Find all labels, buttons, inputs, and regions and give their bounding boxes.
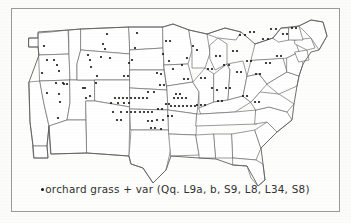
state-louisiana [169, 134, 199, 156]
state-california-south [33, 146, 48, 158]
distribution-dot [154, 127, 156, 129]
distribution-dot [259, 73, 261, 75]
distribution-dot [89, 59, 91, 61]
distribution-dot [53, 59, 55, 61]
distribution-dot [146, 97, 148, 99]
us-dot-distribution-map [11, 8, 340, 212]
state-michigan-upper [207, 28, 241, 40]
distribution-dot [130, 111, 132, 113]
distribution-dot [225, 87, 227, 89]
distribution-dot [173, 97, 175, 99]
distribution-dot [136, 32, 138, 34]
distribution-dot [157, 108, 159, 110]
distribution-dot [174, 105, 176, 107]
state-north-dakota [129, 27, 163, 50]
distribution-dot [160, 128, 162, 130]
distribution-dot [276, 55, 278, 57]
distribution-dot [118, 97, 120, 99]
distribution-dot [130, 97, 132, 99]
figure-caption: orchard grass + var (Qq. L9a, b, S9, L8,… [0, 183, 351, 195]
distribution-dot [123, 102, 125, 104]
distribution-dot [177, 97, 179, 99]
distribution-dot [211, 87, 213, 89]
distribution-dot [126, 111, 128, 113]
distribution-dot [267, 38, 269, 40]
distribution-dot [100, 56, 102, 58]
distribution-dot [163, 84, 165, 86]
distribution-dot [120, 111, 122, 113]
distribution-dot [190, 105, 192, 107]
distribution-dot [170, 105, 172, 107]
distribution-dot [171, 115, 173, 117]
state-wisconsin [189, 30, 210, 68]
distribution-dot [211, 68, 213, 70]
distribution-dot [275, 28, 277, 30]
distribution-dot [147, 120, 149, 122]
distribution-dot [246, 60, 248, 62]
distribution-dot [167, 115, 169, 117]
state-arkansas [168, 110, 197, 135]
distribution-dot [204, 104, 206, 106]
distribution-dot [143, 111, 145, 113]
state-oregon [39, 54, 70, 81]
distribution-dot [128, 102, 130, 104]
distribution-dot [229, 87, 231, 89]
distribution-dot [286, 33, 288, 35]
distribution-dot [162, 119, 164, 121]
distribution-dot [207, 68, 209, 70]
distribution-dot [186, 105, 188, 107]
distribution-dot [139, 111, 141, 113]
distribution-dot [228, 64, 230, 66]
distribution-dot [165, 40, 167, 42]
distribution-dot [194, 105, 196, 107]
distribution-dot [291, 27, 293, 29]
distribution-dot [123, 75, 125, 77]
distribution-dot [240, 71, 242, 73]
distribution-dot [250, 60, 252, 62]
distribution-dot [57, 117, 59, 119]
distribution-dot [169, 40, 171, 42]
distribution-dot [269, 62, 271, 64]
figure-container: orchard grass + var (Qq. L9a, b, S9, L8,… [0, 0, 351, 223]
distribution-dot [242, 95, 244, 97]
distribution-dot [254, 101, 256, 103]
distribution-dot [151, 120, 153, 122]
state-washington [38, 30, 69, 55]
state-wyoming [77, 50, 130, 80]
map-panel [11, 8, 340, 212]
distribution-dot [200, 77, 202, 79]
state-mississippi [196, 134, 216, 158]
distribution-dot [182, 105, 184, 107]
distribution-dot [58, 93, 60, 95]
distribution-dot [56, 64, 58, 66]
distribution-dot [96, 75, 98, 77]
distribution-dot [162, 53, 164, 55]
distribution-dot [150, 127, 152, 129]
distribution-dot [168, 103, 170, 105]
state-boundaries [29, 20, 327, 186]
distribution-dot [147, 111, 149, 113]
distribution-dot [232, 50, 234, 52]
distribution-dot [219, 55, 221, 57]
distribution-dot [265, 62, 267, 64]
distribution-dot [85, 97, 87, 99]
distribution-dot [192, 45, 194, 47]
distribution-dot [244, 34, 246, 36]
distribution-dot [116, 119, 118, 121]
distribution-dot [295, 27, 297, 29]
distribution-dot [151, 111, 153, 113]
distribution-dot [246, 95, 248, 97]
dot-symbol [41, 188, 44, 191]
distribution-dot [95, 82, 97, 84]
distribution-dot [187, 78, 189, 80]
distribution-dot [270, 28, 272, 30]
distribution-dot [122, 97, 124, 99]
distribution-dot [153, 91, 155, 93]
distribution-dot [131, 59, 133, 61]
distribution-dot [196, 104, 198, 106]
distribution-dot [138, 97, 140, 99]
distribution-dot [46, 59, 48, 61]
distribution-dot [109, 57, 111, 59]
distribution-dot [63, 83, 65, 85]
distribution-dot [126, 97, 128, 99]
